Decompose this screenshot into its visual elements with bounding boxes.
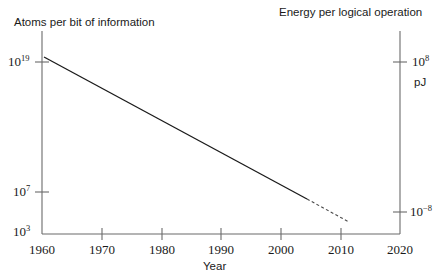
right-axis-unit: pJ	[414, 77, 426, 89]
left-tick-label-1e19: 1019	[8, 55, 30, 68]
right-tick-label-1e8: 108	[412, 55, 429, 68]
x-tick-label-1980: 1980	[139, 243, 185, 256]
x-tick-label-2020: 2020	[377, 243, 423, 256]
data-line-dashed	[307, 199, 349, 222]
right-tick-mantissa-1e-8: 10	[410, 204, 423, 219]
data-line-solid	[44, 57, 307, 199]
x-tick-label-2010: 2010	[318, 243, 364, 256]
right-axis-title: Energy per logical operation	[279, 7, 422, 19]
chart-figure: Atoms per bit of information Energy per …	[0, 0, 446, 277]
right-tick-label-1e-8: 10−8	[410, 205, 432, 218]
x-tick-label-2000: 2000	[258, 243, 304, 256]
left-tick-label-1e3: 103	[13, 225, 30, 238]
x-tick-label-1960: 1960	[19, 243, 65, 256]
left-tick-mantissa-1e7: 10	[13, 184, 26, 199]
left-tick-exponent-1e7: 7	[26, 183, 30, 193]
left-tick-mantissa-1e19: 10	[8, 54, 21, 69]
x-axis-title: Year	[203, 261, 226, 273]
x-tick-label-1990: 1990	[198, 243, 244, 256]
left-tick-mantissa-1e3: 10	[13, 224, 26, 239]
left-axis-title: Atoms per bit of information	[14, 17, 155, 29]
left-tick-exponent-1e19: 19	[21, 53, 30, 63]
left-tick-exponent-1e3: 3	[26, 223, 30, 233]
x-tick-label-1970: 1970	[79, 243, 125, 256]
chart-canvas	[0, 0, 446, 277]
right-tick-exponent-1e-8: −8	[423, 203, 432, 213]
left-tick-label-1e7: 107	[13, 185, 30, 198]
right-tick-exponent-1e8: 8	[425, 53, 429, 63]
right-tick-mantissa-1e8: 10	[412, 54, 425, 69]
